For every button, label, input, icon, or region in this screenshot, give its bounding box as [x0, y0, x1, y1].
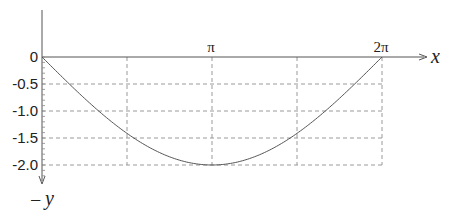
- x-tick-label: π: [207, 39, 215, 55]
- y-tick-label: 0: [30, 48, 38, 65]
- y-tick-labels: 0-0.5-1.0-1.5-2.0: [12, 48, 38, 173]
- x-axis-label: x: [430, 45, 440, 67]
- x-tick-labels: π2π: [207, 39, 389, 55]
- y-axis-minus-sign: −: [30, 189, 41, 211]
- y-axis-label: y: [43, 187, 54, 210]
- grid-lines: [42, 57, 382, 165]
- chart: 0-0.5-1.0-1.5-2.0 π2π x − y: [0, 0, 451, 219]
- y-tick-label: -0.5: [12, 75, 38, 92]
- x-tick-label: 2π: [373, 39, 389, 55]
- axes: [39, 10, 427, 184]
- y-tick-label: -2.0: [12, 156, 38, 173]
- y-tick-label: -1.0: [12, 102, 38, 119]
- y-tick-label: -1.5: [12, 129, 38, 146]
